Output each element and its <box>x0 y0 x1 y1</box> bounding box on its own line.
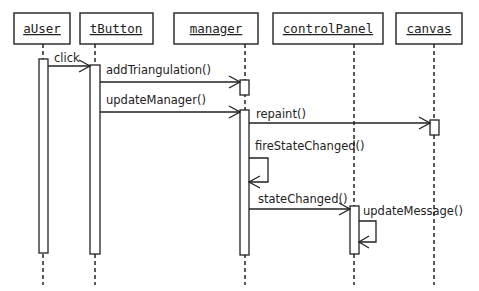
message-label: addTriangulation() <box>106 63 211 77</box>
object-controlPanel: controlPanel <box>273 13 383 44</box>
activation-manager-updateManager <box>240 110 249 255</box>
object-label: canvas <box>406 21 451 36</box>
object-tButton: tButton <box>80 13 153 44</box>
activation-canvas <box>430 120 439 135</box>
message-label: fireStateChanged() <box>255 139 365 153</box>
sequence-diagram: aUser tButton manager controlPanel canva… <box>0 0 479 291</box>
activation-tButton <box>90 65 100 254</box>
message-label: repaint() <box>256 107 306 121</box>
message-label: updateMessage() <box>363 204 463 218</box>
activation-aUser <box>39 59 48 253</box>
activation-controlPanel <box>350 206 359 254</box>
activation-manager-addTriangulation <box>240 80 249 95</box>
object-label: controlPanel <box>283 21 373 36</box>
message-fireStateChanged: fireStateChanged() <box>249 139 365 188</box>
message-click: click <box>48 51 90 72</box>
message-addTriangulation: addTriangulation() <box>100 63 240 88</box>
message-updateMessage: updateMessage() <box>359 204 463 248</box>
object-manager: manager <box>174 13 258 44</box>
message-label: updateManager() <box>106 93 206 107</box>
message-repaint: repaint() <box>249 107 430 129</box>
object-label: aUser <box>23 21 61 36</box>
object-canvas: canvas <box>396 13 462 44</box>
object-aUser: aUser <box>14 13 70 44</box>
message-stateChanged: stateChanged() <box>249 192 350 215</box>
message-label: stateChanged() <box>258 192 347 206</box>
message-updateManager: updateManager() <box>100 93 240 118</box>
message-label: click <box>54 51 80 65</box>
object-label: manager <box>190 21 243 36</box>
object-label: tButton <box>90 21 143 36</box>
